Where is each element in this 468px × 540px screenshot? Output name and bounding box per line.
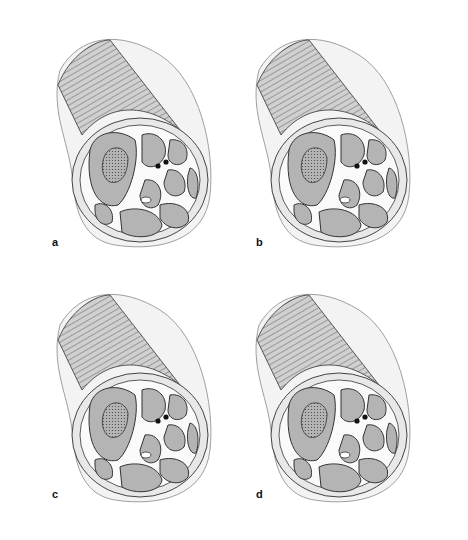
panel-label-a: a [52, 236, 58, 248]
panel-d: d [234, 270, 468, 540]
panel-label-b: b [256, 236, 263, 248]
limb-cross-section-illustration-a [0, 0, 234, 270]
limb-cross-section-illustration-c [0, 270, 234, 540]
panel-b: b [234, 0, 468, 270]
panel-label-c: c [52, 488, 58, 500]
panel-label-d: d [256, 488, 263, 500]
panel-a: a [0, 0, 234, 270]
panel-c: c [0, 270, 234, 540]
limb-cross-section-illustration-d [234, 270, 468, 540]
limb-cross-section-illustration-b [234, 0, 468, 270]
